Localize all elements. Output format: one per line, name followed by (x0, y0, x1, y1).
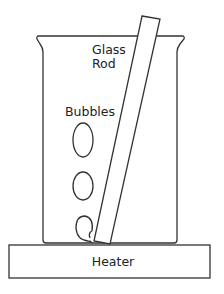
glass-rod-label-line2: Rod (92, 56, 116, 71)
bubble-3 (76, 216, 92, 243)
heater-label: Heater (92, 254, 135, 269)
beaker-diagram: Heater Glass Rod Bubbles (0, 0, 224, 294)
bubble-2 (73, 172, 93, 200)
bubbles-label: Bubbles (65, 104, 115, 119)
glass-rod-label-line1: Glass (92, 42, 126, 57)
bubble-1 (73, 123, 93, 157)
